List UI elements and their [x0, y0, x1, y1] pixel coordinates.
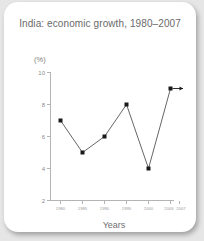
- y-tick-label-8: 8: [42, 102, 46, 108]
- x-tick-label-1995: 1995: [122, 206, 132, 211]
- y-tick-group: 10 8 6 4 2: [38, 70, 50, 204]
- x-tick-label-2005: 2005: [164, 206, 174, 211]
- series-markers: [59, 87, 173, 171]
- x-tick-label-2000: 2000: [144, 206, 154, 211]
- y-tick-label-2: 2: [42, 198, 46, 204]
- data-point-1990[interactable]: [103, 135, 107, 139]
- x-tick-label-1980: 1980: [56, 206, 66, 211]
- data-point-1985[interactable]: [81, 151, 85, 155]
- chart-card: India: economic growth, 1980–2007 (%) 10…: [4, 2, 196, 232]
- projection-arrow-icon: [173, 86, 184, 90]
- x-tick-label-1990: 1990: [100, 206, 110, 211]
- y-axis-unit-label: (%): [34, 55, 46, 64]
- x-tick-label-1985: 1985: [78, 206, 88, 211]
- y-tick-label-10: 10: [38, 70, 45, 76]
- line-chart-svg: (%) 10 8 6 4 2: [4, 42, 196, 232]
- plot-area: (%) 10 8 6 4 2: [4, 42, 196, 232]
- x-tick-label-2007: 2007: [176, 206, 186, 211]
- x-tick-group: 1980 1985 1990 1995 2000 2005 2007: [56, 201, 186, 212]
- data-point-1980[interactable]: [59, 119, 63, 123]
- series-line-gdp-growth: [61, 89, 171, 169]
- y-tick-label-6: 6: [42, 134, 46, 140]
- chart-title: India: economic growth, 1980–2007: [4, 18, 196, 29]
- screenshot-root: India: economic growth, 1980–2007 (%) 10…: [0, 0, 204, 241]
- data-point-2000[interactable]: [147, 167, 151, 171]
- projection-arrow-head: [180, 86, 184, 90]
- data-point-1995[interactable]: [125, 103, 129, 107]
- x-axis-title: Years: [103, 220, 126, 230]
- y-tick-label-4: 4: [42, 166, 46, 172]
- data-point-2005[interactable]: [169, 87, 173, 91]
